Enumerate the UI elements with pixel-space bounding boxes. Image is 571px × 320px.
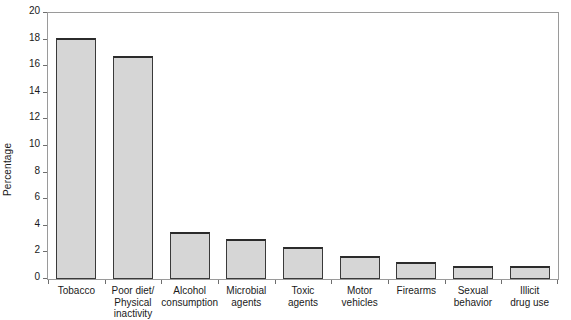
x-axis-tick-mark <box>275 280 276 284</box>
bar-chart: Percentage 02468101214161820 TobaccoPoor… <box>0 0 571 320</box>
bar-slot <box>331 13 388 279</box>
bar-slot <box>388 13 445 279</box>
y-axis-tick-label: 18 <box>29 32 40 43</box>
y-axis: 02468101214161820 <box>0 12 47 280</box>
bar-slot <box>445 13 502 279</box>
x-axis-category-label: Motor vehicles <box>331 285 388 308</box>
x-axis-category-label: Poor diet/ Physical inactivity <box>105 285 162 320</box>
x-axis-tick-mark <box>501 280 502 284</box>
x-axis-tick-mark <box>105 280 106 284</box>
bar <box>396 262 436 279</box>
x-axis-tick-mark <box>218 280 219 284</box>
bar-slot <box>501 13 558 279</box>
x-axis-tick-mark <box>557 280 558 284</box>
bar <box>453 266 493 279</box>
x-axis-category-label: Tobacco <box>48 285 105 297</box>
bar <box>283 247 323 279</box>
x-axis-tick-mark <box>445 280 446 284</box>
bar-slot <box>275 13 332 279</box>
y-axis-tick-label: 0 <box>34 271 40 282</box>
bar <box>56 38 96 279</box>
bar <box>226 239 266 279</box>
y-axis-tick-label: 2 <box>34 244 40 255</box>
y-axis-tick-label: 10 <box>29 138 40 149</box>
x-axis-category-label: Toxic agents <box>275 285 332 308</box>
bar-slot <box>161 13 218 279</box>
x-axis-category-label: Illicit drug use <box>501 285 558 308</box>
bar <box>340 256 380 279</box>
x-axis-category-label: Microbial agents <box>218 285 275 308</box>
x-axis-category-label: Sexual behavior <box>445 285 502 308</box>
x-axis-tick-mark <box>48 280 49 284</box>
bars-container <box>48 13 558 279</box>
y-axis-tick-label: 4 <box>34 218 40 229</box>
y-axis-tick-label: 20 <box>29 5 40 16</box>
bar-slot <box>105 13 162 279</box>
bar-slot <box>48 13 105 279</box>
y-axis-tick-label: 8 <box>34 165 40 176</box>
y-axis-tick-label: 14 <box>29 85 40 96</box>
bar <box>510 266 550 279</box>
x-axis-category-label: Alcohol consumption <box>161 285 218 308</box>
bar-slot <box>218 13 275 279</box>
x-axis-tick-mark <box>331 280 332 284</box>
x-axis-category-label: Firearms <box>388 285 445 297</box>
y-axis-tick-label: 12 <box>29 111 40 122</box>
bar <box>113 56 153 279</box>
y-axis-tick-label: 6 <box>34 191 40 202</box>
bar <box>170 232 210 279</box>
x-axis-labels: TobaccoPoor diet/ Physical inactivityAlc… <box>48 285 558 320</box>
x-axis-tick-mark <box>388 280 389 284</box>
x-axis-tick-mark <box>161 280 162 284</box>
y-axis-tick-label: 16 <box>29 58 40 69</box>
